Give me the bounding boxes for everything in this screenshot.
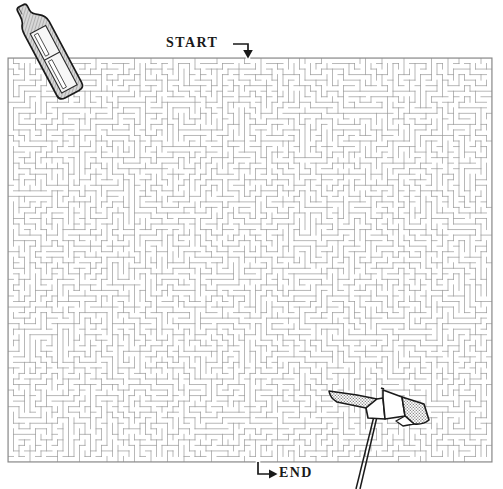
maze-labels: START END bbox=[0, 0, 503, 489]
maze-puzzle-canvas: START END bbox=[0, 0, 503, 489]
start-label: START bbox=[166, 36, 218, 50]
end-label: END bbox=[279, 466, 313, 480]
